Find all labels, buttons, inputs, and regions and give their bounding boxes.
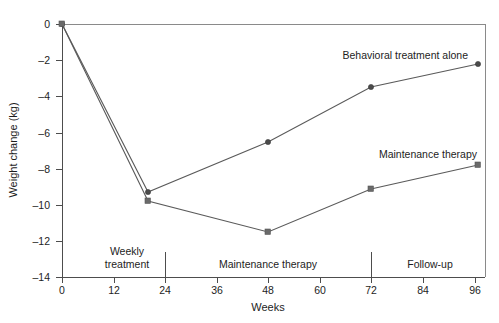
phase-label-maintenance-therapy: Maintenance therapy bbox=[219, 258, 318, 270]
y-tick-label-0: 0 bbox=[44, 18, 50, 30]
x-tick-label-96: 96 bbox=[469, 284, 481, 296]
series-label-behavioral-treatment-alone: Behavioral treatment alone bbox=[343, 49, 469, 61]
x-axis-title: Weeks bbox=[251, 301, 285, 313]
y-tick-label-minus4: –4 bbox=[38, 90, 50, 102]
x-tick-label-0: 0 bbox=[59, 284, 65, 296]
y-tick-label-minus12: –12 bbox=[32, 235, 50, 247]
y-axis-ticks bbox=[56, 24, 62, 277]
data-point-maintenance-week96 bbox=[475, 162, 480, 167]
data-point-maintenance-week20 bbox=[145, 198, 150, 203]
phase-label-weekly-treatment-line1: Weekly bbox=[110, 245, 145, 257]
x-tick-label-72: 72 bbox=[365, 284, 377, 296]
x-tick-label-12: 12 bbox=[108, 284, 120, 296]
x-tick-label-48: 48 bbox=[262, 284, 274, 296]
data-point-behavioral-week96 bbox=[475, 61, 480, 66]
chart-svg: 0 –2 –4 –6 –8 –10 –12 –14 Weight change … bbox=[0, 0, 499, 323]
series-behavioral-treatment-alone bbox=[59, 21, 480, 194]
y-tick-label-minus8: –8 bbox=[38, 163, 50, 175]
data-point-behavioral-week20 bbox=[145, 189, 150, 194]
phase-label-weekly-treatment-line2: treatment bbox=[105, 258, 149, 270]
series-label-maintenance-therapy: Maintenance therapy bbox=[379, 148, 478, 160]
phase-label-follow-up: Follow-up bbox=[407, 258, 453, 270]
y-tick-label-minus10: –10 bbox=[32, 199, 50, 211]
phase-labels: Weekly treatment Maintenance therapy Fol… bbox=[105, 245, 453, 270]
data-point-behavioral-week48 bbox=[265, 139, 270, 144]
x-tick-label-36: 36 bbox=[211, 284, 223, 296]
y-tick-label-minus2: –2 bbox=[38, 54, 50, 66]
x-tick-label-60: 60 bbox=[314, 284, 326, 296]
y-tick-label-minus6: –6 bbox=[38, 127, 50, 139]
data-point-maintenance-week48 bbox=[265, 229, 270, 234]
weight-change-line-chart: 0 –2 –4 –6 –8 –10 –12 –14 Weight change … bbox=[0, 0, 499, 323]
x-tick-label-24: 24 bbox=[159, 284, 171, 296]
y-axis-title: Weight change (kg) bbox=[7, 102, 19, 197]
y-axis-tick-labels: 0 –2 –4 –6 –8 –10 –12 –14 bbox=[32, 18, 50, 283]
x-axis-ticks bbox=[62, 277, 475, 283]
y-tick-label-minus14: –14 bbox=[32, 271, 50, 283]
x-axis-tick-labels: 0 12 24 36 48 60 72 84 96 bbox=[59, 284, 481, 296]
data-point-maintenance-week72 bbox=[368, 186, 373, 191]
x-tick-label-84: 84 bbox=[417, 284, 429, 296]
data-point-behavioral-week72 bbox=[368, 84, 373, 89]
data-point-maintenance-week0 bbox=[59, 21, 64, 26]
